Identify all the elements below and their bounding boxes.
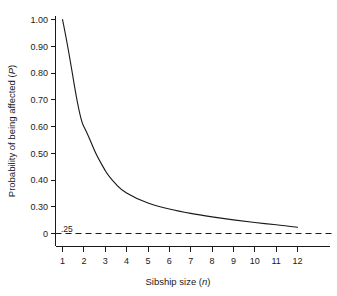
y-tick-label-0.80: 0.80 — [30, 68, 48, 78]
x-tick-label-5: 5 — [145, 256, 150, 266]
y-tick-label-1.00: 1.00 — [30, 15, 48, 25]
x-tick-label-9: 9 — [231, 256, 236, 266]
x-axis-title-text: Sibship size — [146, 276, 197, 287]
y-tick-label-0.40: 0.40 — [30, 175, 48, 185]
probability-curve — [63, 20, 298, 228]
x-tick-label-3: 3 — [103, 256, 108, 266]
y-tick-label-0.30: 0.30 — [30, 202, 48, 212]
y-axis-title: Probability of being affected (P) — [6, 65, 17, 197]
x-tick-label-2: 2 — [81, 256, 86, 266]
x-tick-label-7: 7 — [188, 256, 193, 266]
chart-canvas: 1.00 0.90 0.80 0.70 0.60 0.50 0.40 0.30 … — [0, 0, 337, 296]
y-tick-label-0.90: 0.90 — [30, 42, 48, 52]
y-tick-label-0: 0 — [43, 229, 48, 239]
x-axis-group: 1 2 3 4 5 6 7 8 9 10 11 12 Sibship size … — [56, 247, 331, 288]
x-tick-label-1: 1 — [60, 256, 65, 266]
x-tick-label-6: 6 — [167, 256, 172, 266]
x-tick-label-12: 12 — [292, 256, 302, 266]
y-tick-label-0.50: 0.50 — [30, 149, 48, 159]
y-tick-label-0.70: 0.70 — [30, 95, 48, 105]
x-axis-title: Sibship size (n) — [146, 276, 211, 287]
x-tick-label-8: 8 — [210, 256, 215, 266]
x-tick-label-4: 4 — [124, 256, 129, 266]
x-tick-label-11: 11 — [272, 256, 281, 266]
y-tick-label-0.60: 0.60 — [30, 122, 48, 132]
y-axis-group: 1.00 0.90 0.80 0.70 0.60 0.50 0.40 0.30 … — [6, 15, 56, 246]
y-axis-title-text: Probability of being affected — [6, 80, 17, 197]
chart-figure: 1.00 0.90 0.80 0.70 0.60 0.50 0.40 0.30 … — [0, 0, 337, 296]
quarter-reference-label: .25 — [61, 224, 73, 234]
x-tick-label-10: 10 — [250, 256, 260, 266]
